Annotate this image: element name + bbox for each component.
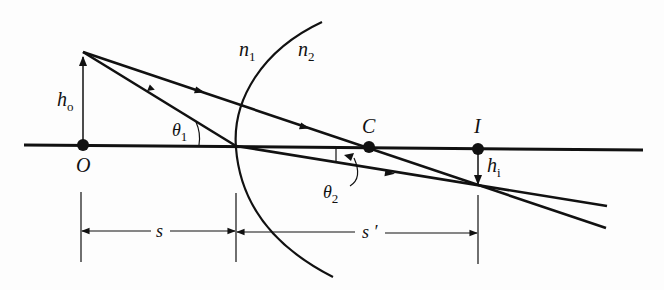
center-of-curvature-dot: [363, 141, 375, 153]
label-object-distance: s: [156, 221, 163, 241]
label-object-height: ho: [57, 88, 74, 114]
ray-through-center: [83, 52, 606, 228]
label-center-of-curvature: C: [362, 115, 376, 137]
label-n2: n2: [298, 38, 315, 64]
label-image-distance: s ′: [362, 222, 379, 242]
refraction-diagram: ho O θ1 n1 n2 C θ2 I hi s s ′: [0, 0, 664, 290]
label-n1: n1: [239, 38, 256, 64]
angle-theta2-arrow-icon: [344, 153, 354, 161]
object-point-dot: [77, 139, 89, 151]
ray-through-vertex-incident: [83, 52, 236, 146]
angle-theta1-arc: [196, 122, 200, 145]
label-image-point: I: [473, 115, 482, 137]
angle-theta2-leader: [350, 158, 358, 186]
label-theta2: θ2: [323, 182, 338, 206]
label-image-height: hi: [487, 154, 501, 180]
optical-axis: [24, 145, 643, 150]
label-theta1: θ1: [172, 120, 187, 144]
ray-through-vertex-refracted: [236, 146, 607, 206]
label-object-point: O: [76, 154, 90, 176]
